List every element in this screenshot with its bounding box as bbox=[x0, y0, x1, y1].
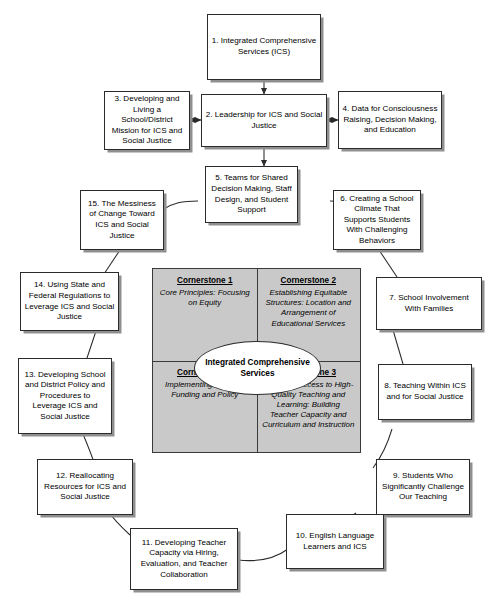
node-8-label: 8. Teaching Within ICS and for Social Ju… bbox=[382, 381, 468, 402]
connector-5-15 bbox=[164, 201, 198, 209]
node-11[interactable]: 11. Developing Teacher Capacity via Hiri… bbox=[130, 528, 238, 590]
node-4-label: 4. Data for Consciousness Raising, Decis… bbox=[342, 104, 438, 136]
node-4[interactable]: 4. Data for Consciousness Raising, Decis… bbox=[338, 91, 442, 149]
node-6[interactable]: 6. Creating a School Climate That Suppor… bbox=[333, 190, 421, 250]
cornerstone-1-heading: Cornerstone 1 bbox=[158, 275, 252, 286]
node-13[interactable]: 13. Developing School and District Polic… bbox=[18, 358, 112, 434]
node-12-label: 12. Reallocating Resources for ICS and S… bbox=[41, 471, 129, 503]
node-15[interactable]: 15. The Messiness of Change Toward ICS a… bbox=[80, 190, 164, 250]
center-oval-label: Integrated Comprehensive Services bbox=[194, 341, 321, 395]
node-15-label: 15. The Messiness of Change Toward ICS a… bbox=[84, 199, 160, 241]
cornerstone-2-body: Establishing Equitable Structures: Locat… bbox=[262, 288, 356, 329]
node-8[interactable]: 8. Teaching Within ICS and for Social Ju… bbox=[378, 364, 472, 420]
node-10[interactable]: 10. English Language Learners and ICS bbox=[286, 514, 384, 569]
node-7[interactable]: 7. School Involvement With Families bbox=[376, 277, 482, 330]
node-13-label: 13. Developing School and District Polic… bbox=[22, 370, 108, 423]
node-3[interactable]: 3. Developing and Living a School/Distri… bbox=[104, 91, 190, 150]
node-9[interactable]: 9. Students Who Significantly Challenge … bbox=[376, 459, 470, 515]
node-10-label: 10. English Language Learners and ICS bbox=[290, 531, 380, 552]
node-1-label: 1. Integrated Comprehensive Services (IC… bbox=[211, 36, 317, 57]
diagram-canvas: Cornerstone 1 Core Principles: Focusing … bbox=[0, 0, 498, 603]
node-12[interactable]: 12. Reallocating Resources for ICS and S… bbox=[37, 459, 133, 515]
cornerstone-1-body: Core Principles: Focusing on Equity bbox=[158, 288, 252, 308]
node-1[interactable]: 1. Integrated Comprehensive Services (IC… bbox=[207, 14, 321, 80]
node-14-label: 14. Using State and Federal Regulations … bbox=[24, 280, 115, 322]
node-6-label: 6. Creating a School Climate That Suppor… bbox=[337, 194, 417, 247]
cornerstone-2-heading: Cornerstone 2 bbox=[262, 275, 356, 286]
node-14[interactable]: 14. Using State and Federal Regulations … bbox=[20, 272, 119, 331]
connector-6-7 bbox=[379, 250, 397, 277]
node-2[interactable]: 2. Leadership for ICS and Social Justice bbox=[201, 94, 327, 147]
connector-7-8 bbox=[393, 330, 403, 364]
node-3-label: 3. Developing and Living a School/Distri… bbox=[108, 94, 186, 147]
node-2-label: 2. Leadership for ICS and Social Justice bbox=[205, 110, 323, 131]
node-9-label: 9. Students Who Significantly Challenge … bbox=[380, 471, 466, 503]
node-11-label: 11. Developing Teacher Capacity via Hiri… bbox=[134, 538, 234, 580]
node-7-label: 7. School Involvement With Families bbox=[380, 293, 478, 314]
node-5-label: 5. Teams for Shared Decision Making, Sta… bbox=[209, 173, 294, 215]
node-5[interactable]: 5. Teams for Shared Decision Making, Sta… bbox=[205, 166, 298, 223]
connector-10-11 bbox=[238, 549, 288, 561]
